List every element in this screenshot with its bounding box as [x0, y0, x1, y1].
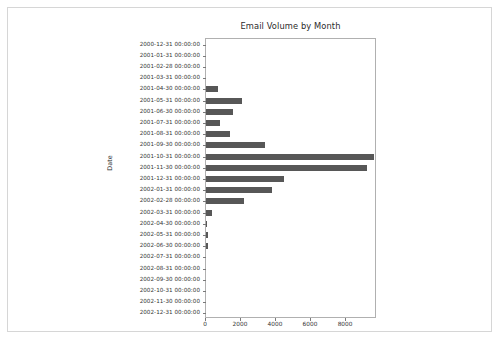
- bar-row: [206, 285, 375, 296]
- x-tick-label: 6000: [303, 321, 318, 327]
- y-tick-mark: [203, 302, 206, 303]
- y-tick-mark: [203, 291, 206, 292]
- x-tick-label: 2000: [233, 321, 248, 327]
- y-axis-label: Date: [106, 155, 114, 170]
- bar-row: [206, 263, 375, 274]
- y-tick-label: 2002-11-30 00:00:00: [140, 298, 200, 304]
- y-tick-mark: [203, 280, 206, 281]
- y-axis-tick-labels: 2000-12-31 00:00:002001-01-31 00:00:0020…: [128, 38, 200, 318]
- x-tick-label: 0: [203, 321, 207, 327]
- y-tick-label: 2002-03-31 00:00:00: [140, 209, 200, 215]
- y-tick-label: 2002-12-31 00:00:00: [140, 309, 200, 315]
- y-tick-mark: [203, 235, 206, 236]
- bar-row: [206, 308, 375, 319]
- bar: [206, 154, 374, 160]
- bar-row: [206, 61, 375, 72]
- bar: [206, 243, 208, 249]
- y-tick-mark: [203, 123, 206, 124]
- y-tick-label: 2002-07-31 00:00:00: [140, 253, 200, 259]
- bar: [206, 120, 220, 126]
- bar-row: [206, 241, 375, 252]
- bar: [206, 176, 284, 182]
- bar-row: [206, 95, 375, 106]
- y-tick-label: 2001-07-31 00:00:00: [140, 119, 200, 125]
- bars-layer: [206, 39, 375, 317]
- y-tick-label: 2000-12-31 00:00:00: [140, 41, 200, 47]
- y-tick-mark: [203, 89, 206, 90]
- y-tick-mark: [203, 179, 206, 180]
- bar-row: [206, 207, 375, 218]
- plot-area: [205, 38, 376, 318]
- bar-row: [206, 106, 375, 117]
- y-tick-label: 2002-08-31 00:00:00: [140, 265, 200, 271]
- y-tick-mark: [203, 257, 206, 258]
- y-tick-mark: [203, 78, 206, 79]
- y-tick-mark: [203, 45, 206, 46]
- y-tick-label: 2001-05-31 00:00:00: [140, 97, 200, 103]
- y-tick-mark: [203, 112, 206, 113]
- chart-title: Email Volume by Month: [205, 21, 376, 31]
- y-tick-label: 2002-10-31 00:00:00: [140, 287, 200, 293]
- x-tick-mark: [310, 318, 311, 321]
- y-tick-label: 2002-02-28 00:00:00: [140, 197, 200, 203]
- y-tick-label: 2002-09-30 00:00:00: [140, 276, 200, 282]
- y-tick-label: 2001-11-30 00:00:00: [140, 164, 200, 170]
- bar-row: [206, 39, 375, 50]
- y-tick-mark: [203, 134, 206, 135]
- bar-row: [206, 229, 375, 240]
- y-tick-label: 2001-06-30 00:00:00: [140, 108, 200, 114]
- bar: [206, 210, 212, 216]
- x-tick-mark: [275, 318, 276, 321]
- bar-row: [206, 151, 375, 162]
- y-tick-mark: [203, 246, 206, 247]
- y-tick-label: 2001-02-28 00:00:00: [140, 63, 200, 69]
- x-tick-mark: [205, 318, 206, 321]
- y-tick-mark: [203, 224, 206, 225]
- y-tick-label: 2001-01-31 00:00:00: [140, 52, 200, 58]
- figure-frame: Email Volume by Month Date 2000-12-31 00…: [7, 7, 492, 332]
- y-tick-mark: [203, 213, 206, 214]
- bar-row: [206, 129, 375, 140]
- y-tick-label: 2002-06-30 00:00:00: [140, 242, 200, 248]
- bar-row: [206, 274, 375, 285]
- bar: [206, 131, 230, 137]
- bar: [206, 232, 208, 238]
- bar: [206, 221, 207, 227]
- y-tick-label: 2001-09-30 00:00:00: [140, 141, 200, 147]
- y-tick-mark: [203, 157, 206, 158]
- bar: [206, 109, 233, 115]
- bar-row: [206, 84, 375, 95]
- bar-row: [206, 185, 375, 196]
- y-tick-mark: [203, 201, 206, 202]
- bar: [206, 98, 242, 104]
- bar-row: [206, 140, 375, 151]
- x-tick-label: 4000: [268, 321, 283, 327]
- bar-row: [206, 173, 375, 184]
- y-tick-mark: [203, 190, 206, 191]
- bar-row: [206, 162, 375, 173]
- x-tick-mark: [345, 318, 346, 321]
- y-tick-label: 2001-10-31 00:00:00: [140, 153, 200, 159]
- y-tick-mark: [203, 168, 206, 169]
- bar-row: [206, 218, 375, 229]
- bar-row: [206, 252, 375, 263]
- y-tick-mark: [203, 313, 206, 314]
- bar-row: [206, 73, 375, 84]
- bar: [206, 198, 244, 204]
- bar-row: [206, 50, 375, 61]
- bar: [206, 142, 265, 148]
- y-tick-label: 2002-01-31 00:00:00: [140, 186, 200, 192]
- y-tick-mark: [203, 67, 206, 68]
- y-tick-label: 2001-12-31 00:00:00: [140, 175, 200, 181]
- y-tick-mark: [203, 269, 206, 270]
- bar: [206, 165, 367, 171]
- y-tick-label: 2001-08-31 00:00:00: [140, 130, 200, 136]
- bar-row: [206, 117, 375, 128]
- x-tick-mark: [240, 318, 241, 321]
- x-tick-label: 8000: [338, 321, 353, 327]
- y-tick-mark: [203, 101, 206, 102]
- bar-row: [206, 196, 375, 207]
- y-tick-label: 2001-03-31 00:00:00: [140, 74, 200, 80]
- bar: [206, 86, 218, 92]
- y-tick-mark: [203, 56, 206, 57]
